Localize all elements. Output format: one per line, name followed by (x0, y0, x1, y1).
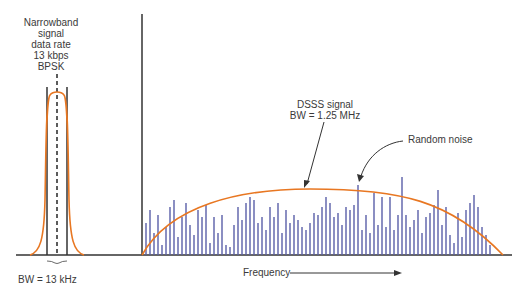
narrowband-label-line-1: Narrowband (18, 17, 84, 28)
noise-label-arrow (361, 141, 403, 176)
frequency-arrowhead-icon (394, 270, 402, 276)
dsss-label-arrow (307, 122, 324, 184)
random-noise-label: Random noise (408, 134, 472, 145)
narrowband-label-line-3: data rate (18, 39, 84, 50)
narrowband-label-line-2: signal (18, 28, 84, 39)
dsss-label: DSSS signal BW = 1.25 MHz (285, 99, 365, 121)
noise-arrowhead-icon (357, 174, 364, 182)
dsss-label-line-2: BW = 1.25 MHz (285, 110, 365, 121)
narrowband-label: Narrowband signal data rate 13 kbps BPSK (18, 17, 84, 72)
bw-brace-icon (47, 261, 67, 264)
dsss-arrowhead-icon (304, 180, 310, 188)
narrowband-signal (30, 74, 84, 264)
narrowband-label-line-5: BPSK (18, 61, 84, 72)
narrowband-label-line-4: 13 kbps (18, 50, 84, 61)
dsss-label-line-1: DSSS signal (285, 99, 365, 110)
frequency-axis-label: Frequency (243, 267, 290, 278)
narrowband-bandwidth-label: BW = 13 kHz (18, 274, 88, 285)
